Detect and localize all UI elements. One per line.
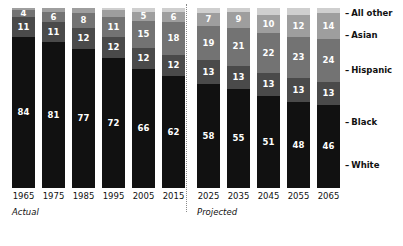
bar-1975: 61181 bbox=[42, 8, 65, 188]
legend-item-label: All other bbox=[351, 8, 392, 18]
bar-2025: 7191358 bbox=[197, 8, 220, 188]
bar-2015: 6181262 bbox=[162, 8, 185, 188]
bar-1985: 81277 bbox=[72, 8, 95, 188]
segment-black: 12 bbox=[132, 48, 155, 70]
segment-asian: 6 bbox=[162, 12, 185, 23]
legend-dash-icon: – bbox=[345, 65, 349, 75]
legend-item-hispanic: –Hispanic bbox=[345, 65, 392, 75]
segment-white: 51 bbox=[257, 96, 280, 188]
bar-2005: 5151266 bbox=[132, 8, 155, 188]
segment-black: 11 bbox=[42, 22, 65, 42]
legend-item-label: Black bbox=[351, 117, 377, 127]
segment-value-label: 4 bbox=[21, 10, 27, 17]
segment-white: 46 bbox=[317, 105, 340, 188]
legend-dash-icon: – bbox=[345, 160, 349, 170]
legend-item-asian: –Asian bbox=[345, 30, 378, 40]
x-tick-label: 2035 bbox=[228, 191, 250, 201]
segment-value-label: 9 bbox=[236, 15, 242, 24]
segment-value-label: 12 bbox=[293, 22, 305, 31]
segment-value-label: 10 bbox=[263, 20, 275, 29]
segment-black: 13 bbox=[317, 82, 340, 105]
segment-value-label: 66 bbox=[138, 124, 150, 133]
segment-asian: 14 bbox=[317, 13, 340, 38]
segment-white: 81 bbox=[42, 42, 65, 188]
segment-black: 12 bbox=[162, 55, 185, 77]
actual-projected-divider bbox=[186, 4, 187, 212]
segment-value-label: 6 bbox=[171, 13, 177, 22]
stacked-bar-chart: 41184611818127711127251512666181262 7191… bbox=[0, 0, 403, 246]
segment-white: 55 bbox=[227, 89, 250, 188]
chart-legend: –All other–Asian–Hispanic–Black–White bbox=[345, 0, 403, 190]
segment-hispanic: 6 bbox=[42, 12, 65, 23]
segment-value-label: 11 bbox=[48, 28, 60, 37]
period-caption-actual: Actual bbox=[12, 207, 39, 217]
segment-value-label: 19 bbox=[203, 39, 215, 48]
segment-hispanic: 24 bbox=[317, 39, 340, 82]
plot-area: 41184611818127711127251512666181262 7191… bbox=[0, 0, 403, 246]
segment-hispanic: 8 bbox=[72, 13, 95, 27]
segment-hispanic: 11 bbox=[102, 17, 125, 37]
x-tick-label: 2015 bbox=[163, 191, 185, 201]
segment-all-other bbox=[287, 8, 310, 15]
segment-value-label: 12 bbox=[78, 34, 90, 43]
segment-hispanic: 19 bbox=[197, 26, 220, 60]
segment-value-label: 15 bbox=[138, 30, 150, 39]
segment-black: 13 bbox=[257, 73, 280, 96]
bar-group-actual: 41184611818127711127251512666181262 bbox=[12, 8, 185, 188]
x-tick-label: 1975 bbox=[43, 191, 65, 201]
segment-hispanic: 4 bbox=[12, 10, 35, 17]
x-tick-label: 1965 bbox=[13, 191, 35, 201]
segment-value-label: 55 bbox=[233, 134, 245, 143]
segment-hispanic: 22 bbox=[257, 33, 280, 73]
legend-item-all-other: –All other bbox=[345, 8, 393, 18]
segment-white: 72 bbox=[102, 58, 125, 188]
x-tick-label: 2065 bbox=[318, 191, 340, 201]
segment-hispanic: 23 bbox=[287, 37, 310, 78]
x-tick-label: 1995 bbox=[103, 191, 125, 201]
segment-value-label: 13 bbox=[263, 80, 275, 89]
segment-value-label: 7 bbox=[206, 15, 212, 24]
segment-black: 11 bbox=[12, 17, 35, 37]
segment-white: 66 bbox=[132, 69, 155, 188]
bar-1995: 111272 bbox=[102, 8, 125, 188]
segment-asian bbox=[102, 10, 125, 17]
segment-value-label: 5 bbox=[141, 12, 147, 21]
bar-2045: 10221351 bbox=[257, 8, 280, 188]
segment-value-label: 77 bbox=[78, 114, 90, 123]
segment-value-label: 48 bbox=[293, 141, 305, 150]
segment-black: 13 bbox=[197, 60, 220, 83]
segment-value-label: 84 bbox=[18, 108, 30, 117]
legend-item-label: White bbox=[351, 160, 379, 170]
segment-black: 13 bbox=[227, 66, 250, 89]
segment-value-label: 12 bbox=[168, 61, 180, 70]
segment-hispanic: 15 bbox=[132, 21, 155, 48]
bar-1965: 41184 bbox=[12, 8, 35, 188]
segment-value-label: 72 bbox=[108, 119, 120, 128]
segment-asian: 12 bbox=[287, 15, 310, 37]
legend-item-label: Asian bbox=[351, 30, 377, 40]
segment-value-label: 13 bbox=[293, 86, 305, 95]
segment-value-label: 11 bbox=[108, 23, 120, 32]
segment-value-label: 22 bbox=[263, 49, 275, 58]
legend-dash-icon: – bbox=[345, 117, 349, 127]
segment-value-label: 46 bbox=[323, 142, 335, 151]
x-tick-label: 1985 bbox=[73, 191, 95, 201]
segment-value-label: 81 bbox=[48, 111, 60, 120]
legend-item-white: –White bbox=[345, 160, 379, 170]
segment-black: 12 bbox=[72, 28, 95, 50]
segment-value-label: 21 bbox=[233, 42, 245, 51]
segment-white: 84 bbox=[12, 37, 35, 188]
legend-item-label: Hispanic bbox=[351, 65, 392, 75]
segment-value-label: 12 bbox=[108, 43, 120, 52]
segment-value-label: 6 bbox=[51, 13, 57, 22]
segment-value-label: 14 bbox=[323, 22, 335, 31]
segment-value-label: 51 bbox=[263, 138, 275, 147]
segment-value-label: 62 bbox=[168, 128, 180, 137]
bar-2065: 14241346 bbox=[317, 8, 340, 188]
segment-value-label: 13 bbox=[233, 73, 245, 82]
segment-value-label: 8 bbox=[81, 16, 87, 25]
segment-white: 62 bbox=[162, 76, 185, 188]
segment-value-label: 13 bbox=[323, 89, 335, 98]
bar-group-projected: 71913589211355102213511223134814241346 bbox=[197, 8, 340, 188]
segment-value-label: 23 bbox=[293, 53, 305, 62]
